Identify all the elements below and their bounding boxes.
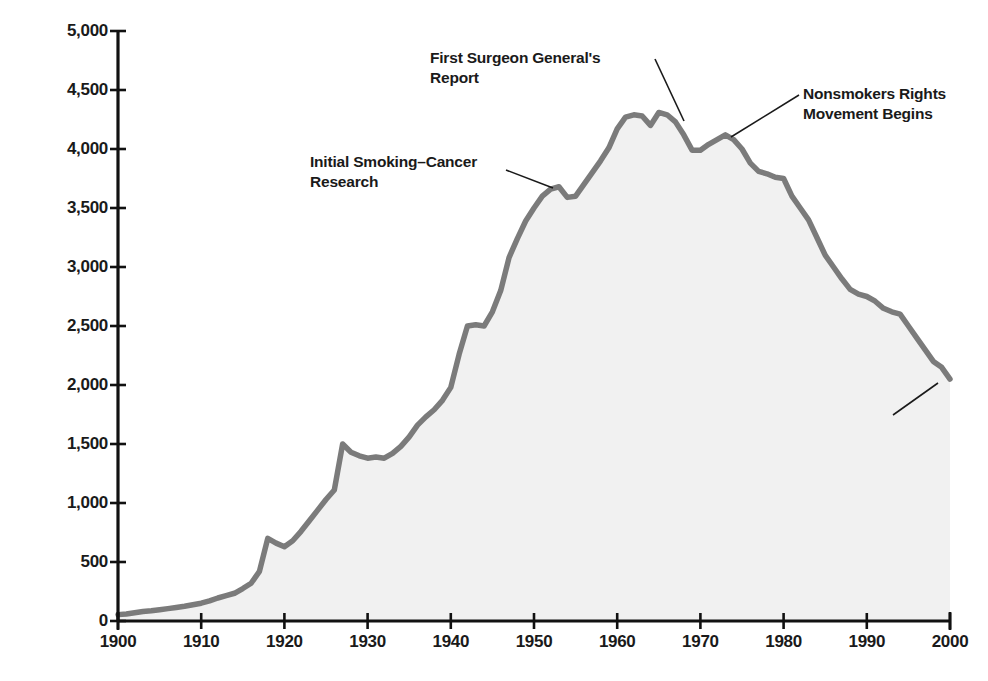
plot-area: [0, 0, 988, 681]
cigarette-consumption-chart: Annual Per Capita Cigarette Consumption …: [0, 0, 988, 681]
area-fill: [118, 112, 950, 621]
leader-line-initial-smoking-cancer-research: [506, 170, 553, 188]
leader-line-nonsmokers-rights-movement-begins: [731, 95, 799, 137]
